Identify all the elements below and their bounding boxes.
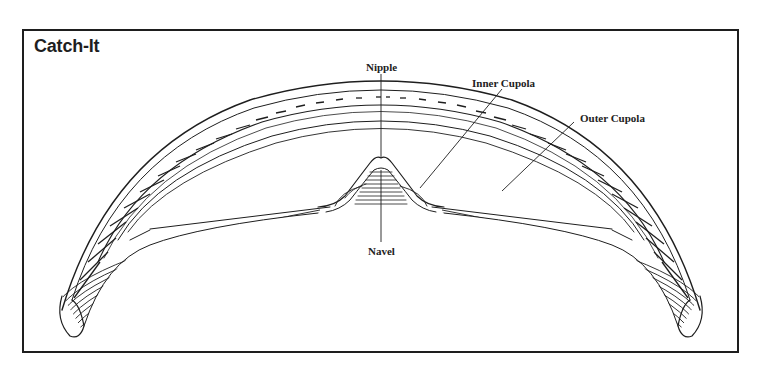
label-nipple: Nipple <box>366 61 397 73</box>
catch-it-cross-section <box>0 0 762 371</box>
label-outer-cupola: Outer Cupola <box>580 112 645 124</box>
outer-cupola-leader-line <box>502 122 574 191</box>
inner-cupola-leader-line <box>420 89 502 188</box>
label-navel: Navel <box>368 245 395 257</box>
label-inner-cupola: Inner Cupola <box>472 77 535 89</box>
